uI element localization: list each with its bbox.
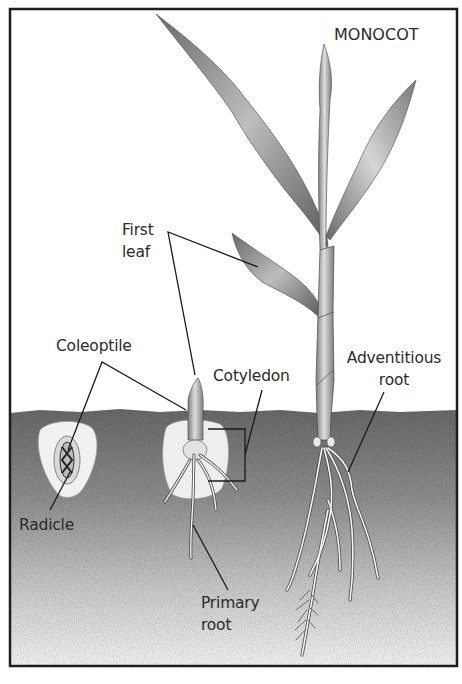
diagram-title: MONOCOT	[334, 24, 419, 46]
label-radicle: Radicle	[19, 514, 74, 536]
label-coleoptile: Coleoptile	[56, 335, 132, 357]
label-first-leaf: First leaf	[122, 219, 154, 263]
label-cotyledon: Cotyledon	[213, 365, 290, 387]
label-primary-root: Primary root	[201, 592, 260, 636]
label-adventitious-root: Adventitious root	[336, 347, 452, 391]
